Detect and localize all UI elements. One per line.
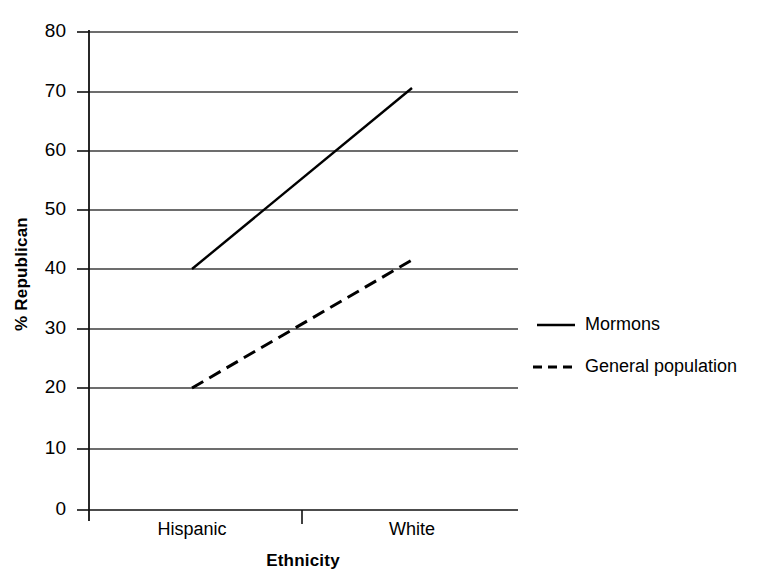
y-axis-ticks	[77, 32, 89, 510]
y-axis-title: % Republican	[12, 174, 32, 374]
x-tick-label-hispanic: Hispanic	[112, 519, 272, 540]
line-chart-canvas	[0, 0, 770, 584]
x-axis-title: Ethnicity	[203, 551, 403, 571]
series-line-general-population	[192, 260, 412, 388]
x-tick-label-white: White	[332, 519, 492, 540]
y-tick-label-60: 60	[24, 139, 66, 161]
y-tick-label-70: 70	[24, 80, 66, 102]
y-tick-label-0: 0	[24, 498, 66, 520]
legend-label-mormons: Mormons	[585, 314, 660, 335]
gridlines	[89, 32, 518, 449]
series-line-mormons	[192, 88, 412, 269]
y-tick-label-80: 80	[24, 20, 66, 42]
y-tick-label-10: 10	[24, 437, 66, 459]
chart-figure: 80 70 60 50 40 30 20 10 0 Hispanic White…	[0, 0, 770, 584]
y-tick-label-20: 20	[24, 376, 66, 398]
legend-label-general-population: General population	[585, 356, 737, 377]
